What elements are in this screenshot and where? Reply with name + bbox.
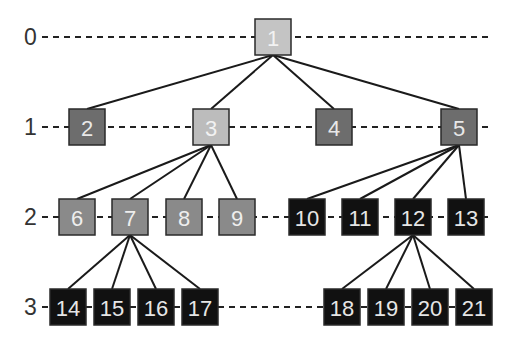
level-lines — [42, 37, 492, 307]
edge-3-6 — [77, 145, 211, 199]
node-label: 20 — [418, 296, 442, 321]
edge-7-16 — [130, 235, 156, 289]
node-label: 17 — [188, 296, 212, 321]
node-label: 3 — [205, 116, 217, 141]
node-label: 11 — [349, 206, 372, 231]
tree-node-3[interactable]: 3 — [193, 109, 229, 145]
tree-node-6[interactable]: 6 — [59, 199, 95, 235]
tree-node-4[interactable]: 4 — [316, 109, 352, 145]
node-label: 15 — [100, 296, 124, 321]
node-label: 6 — [71, 206, 83, 231]
tree-node-18[interactable]: 18 — [324, 289, 360, 325]
node-label: 7 — [124, 206, 136, 231]
tree-node-17[interactable]: 17 — [182, 289, 218, 325]
edge-5-13 — [459, 145, 466, 199]
tree-node-1[interactable]: 1 — [255, 19, 291, 55]
level-label: 0 — [24, 24, 37, 50]
tree-node-8[interactable]: 8 — [166, 199, 202, 235]
tree-node-13[interactable]: 13 — [448, 199, 484, 235]
tree-node-12[interactable]: 12 — [395, 199, 431, 235]
tree-node-5[interactable]: 5 — [441, 109, 477, 145]
node-label: 4 — [328, 116, 340, 141]
node-label: 10 — [295, 206, 319, 231]
edge-3-9 — [211, 145, 237, 199]
tree-node-21[interactable]: 21 — [456, 289, 492, 325]
level-label: 1 — [24, 114, 37, 140]
edges — [68, 55, 474, 289]
node-label: 5 — [453, 116, 465, 141]
level-label: 3 — [24, 294, 37, 320]
tree-node-2[interactable]: 2 — [69, 109, 105, 145]
edge-12-19 — [386, 235, 413, 289]
tree-diagram: 0123 123456789101112131415161718192021 — [0, 0, 523, 344]
edge-1-5 — [273, 55, 459, 109]
level-labels: 0123 — [24, 24, 37, 320]
node-label: 21 — [462, 296, 486, 321]
node-label: 2 — [81, 116, 93, 141]
tree-node-11[interactable]: 11 — [342, 199, 378, 235]
node-label: 18 — [330, 296, 354, 321]
edge-1-2 — [87, 55, 273, 109]
tree-node-15[interactable]: 15 — [94, 289, 130, 325]
tree-node-19[interactable]: 19 — [368, 289, 404, 325]
node-label: 8 — [178, 206, 190, 231]
edge-5-11 — [360, 145, 459, 199]
node-label: 1 — [267, 26, 279, 51]
level-label: 2 — [24, 204, 37, 230]
tree-node-16[interactable]: 16 — [138, 289, 174, 325]
tree-node-14[interactable]: 14 — [50, 289, 86, 325]
node-label: 14 — [56, 296, 80, 321]
tree-node-10[interactable]: 10 — [289, 199, 325, 235]
edge-12-18 — [342, 235, 413, 289]
node-label: 16 — [144, 296, 168, 321]
edge-7-17 — [130, 235, 200, 289]
node-label: 19 — [374, 296, 398, 321]
node-label: 12 — [401, 206, 425, 231]
tree-node-20[interactable]: 20 — [412, 289, 448, 325]
node-label: 13 — [454, 206, 478, 231]
node-label: 9 — [231, 206, 243, 231]
tree-node-9[interactable]: 9 — [219, 199, 255, 235]
tree-node-7[interactable]: 7 — [112, 199, 148, 235]
